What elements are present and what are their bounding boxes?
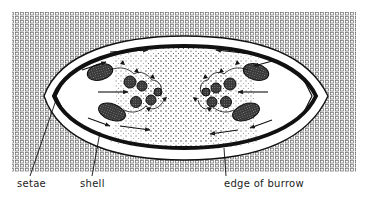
label-edge-of-burrow: edge of burrow <box>224 178 304 189</box>
label-shell: shell <box>80 178 105 189</box>
burrow-diagram: setae shell edge of burrow <box>0 0 367 198</box>
label-setae: setae <box>17 178 46 189</box>
